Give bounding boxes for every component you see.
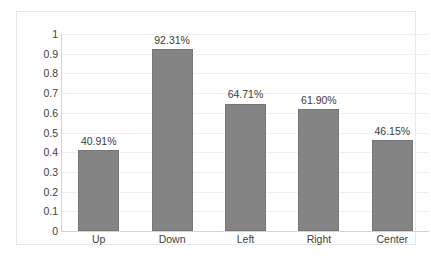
y-tick-label: 0 [30,226,58,237]
axis-baseline [62,231,429,232]
y-tick-label: 0.8 [30,68,58,79]
bar-group[interactable]: 46.15% [372,34,413,231]
x-tick-label-left: Left [237,234,255,245]
y-tick-label: 0.6 [30,108,58,119]
bar-value-label: 64.71% [228,89,264,100]
x-tick-label-right: Right [307,234,332,245]
plot-area: 40.91%92.31%64.71%61.90%46.15% [62,34,429,231]
bar-group[interactable]: 40.91% [78,34,119,231]
bar[interactable] [372,140,413,231]
x-tick-label-center: Center [377,234,409,245]
bar-value-label: 61.90% [301,95,337,106]
bar-value-label: 92.31% [154,35,190,46]
y-tick-label: 0.2 [30,186,58,197]
y-tick-label: 0.7 [30,88,58,99]
y-axis: 00.10.20.30.40.50.60.70.80.91 [25,34,58,231]
y-tick-label: 0.3 [30,167,58,178]
bar[interactable] [152,49,193,231]
chart-frame: 00.10.20.30.40.50.60.70.80.91 40.91%92.3… [16,11,416,245]
x-axis: UpDownLeftRightCenter [62,234,429,252]
bar-group[interactable]: 61.90% [298,34,339,231]
x-tick-label-down: Down [159,234,186,245]
bar-value-label: 46.15% [374,126,410,137]
bar-group[interactable]: 64.71% [225,34,266,231]
y-tick-label: 0.1 [30,206,58,217]
bar-value-label: 40.91% [81,136,117,147]
bar-group[interactable]: 92.31% [152,34,193,231]
x-tick-label-up: Up [92,234,105,245]
y-tick-label: 1 [30,29,58,40]
y-tick-label: 0.4 [30,147,58,158]
y-tick-label: 0.9 [30,48,58,59]
bar[interactable] [298,109,339,231]
y-tick-label: 0.5 [30,127,58,138]
bar[interactable] [225,104,266,231]
bar[interactable] [78,150,119,231]
